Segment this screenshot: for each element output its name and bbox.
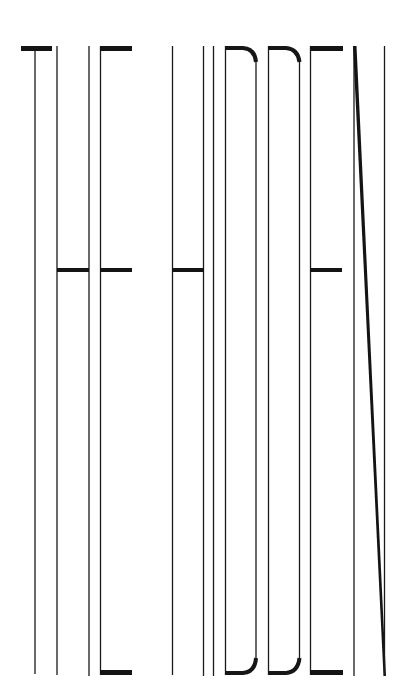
letter-e-2 [310, 46, 343, 675]
letter-d [225, 46, 256, 675]
letter-h-2 [172, 46, 204, 676]
poster-lettering [0, 0, 405, 699]
letter-n [353, 46, 386, 676]
letter-t [21, 46, 52, 674]
typographic-poster: THE HIDDEN [0, 0, 405, 699]
letter-d-2 [268, 46, 300, 675]
letter-h [57, 46, 89, 676]
letter-e [100, 46, 132, 675]
